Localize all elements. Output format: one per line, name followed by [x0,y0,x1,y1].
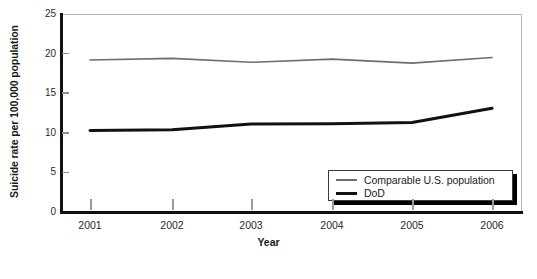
legend-swatch-line-icon [336,179,357,181]
y-tick-mark [62,172,69,174]
figure-caption [10,272,530,279]
legend-label: Comparable U.S. population [364,174,495,186]
chart-figure: Suicide rate per 100,000 population 0510… [0,0,537,279]
x-tick-mark [492,199,494,210]
x-tick-mark [251,199,253,210]
x-axis-title: Year [0,236,537,248]
x-tick-label: 2005 [389,219,435,231]
x-tick-label: 2004 [309,219,355,231]
y-tick-mark [62,132,69,134]
legend-item-comparable-us-population: Comparable U.S. population [336,174,512,186]
x-tick-mark [412,199,414,210]
series-line-comparable-us-population [90,58,492,64]
legend-item-dod: DoD [336,187,512,199]
x-tick-label: 2002 [149,219,195,231]
x-tick-label: 2001 [67,219,113,231]
x-tick-mark [332,199,334,210]
legend-label: DoD [364,187,385,199]
x-tick-mark [90,199,92,210]
legend-swatch-line-icon [336,192,357,195]
x-tick-label: 2006 [469,219,515,231]
y-tick-mark [62,92,69,94]
x-tick-label: 2003 [228,219,274,231]
y-tick-mark [62,53,69,55]
series-line-dod [90,108,492,130]
chart-legend: Comparable U.S. population DoD [328,170,513,201]
x-tick-mark [172,199,174,210]
